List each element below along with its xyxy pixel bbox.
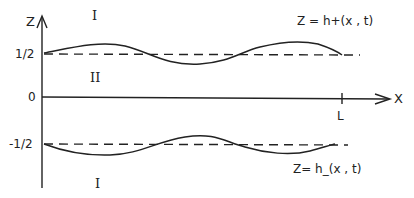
x-axis (42, 97, 388, 99)
tick-l: L (337, 110, 344, 122)
region-lower-label: I (95, 178, 100, 190)
lower-interface-label: Z= h_(x , t) (293, 163, 361, 175)
tick-half: 1/2 (15, 48, 34, 60)
upper-interface-curve (44, 42, 342, 64)
region-upper-label: I (92, 10, 97, 22)
region-middle-label: II (90, 72, 100, 84)
z-axis-label: Z (26, 16, 35, 28)
upper-mean-line (44, 54, 360, 55)
x-axis-label: X (394, 93, 403, 105)
tick-minus-half: -1/2 (9, 138, 33, 150)
upper-interface-label: Z = h+(x , t) (297, 15, 373, 27)
lower-mean-line (44, 144, 348, 145)
tick-zero: 0 (28, 91, 36, 103)
